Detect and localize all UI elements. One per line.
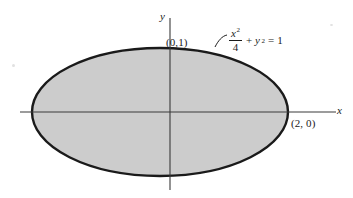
point-label-top: (0,1) bbox=[166, 37, 188, 48]
fraction-denominator: 4 bbox=[231, 41, 241, 53]
x-axis-label: x bbox=[337, 105, 342, 116]
y-axis-label: y bbox=[160, 11, 165, 22]
equals-operator: = bbox=[266, 35, 276, 46]
y-variable: y bbox=[255, 35, 260, 46]
scan-speck bbox=[12, 64, 15, 67]
ellipse-equation: x2 4 + y2 = 1 bbox=[229, 28, 283, 53]
figure-canvas: y x (0,1) (2, 0) x2 4 + y2 = 1 bbox=[0, 0, 353, 198]
scan-speck bbox=[330, 24, 333, 26]
numerator-exponent: 2 bbox=[236, 26, 240, 34]
point-label-right: (2, 0) bbox=[291, 118, 315, 129]
ellipse-diagram bbox=[0, 0, 353, 198]
equation-leader-line bbox=[215, 35, 227, 47]
equation-fraction: x2 4 bbox=[229, 28, 242, 53]
equation-rhs: 1 bbox=[277, 35, 283, 46]
plus-operator: + bbox=[244, 35, 254, 46]
fraction-numerator: x2 bbox=[229, 28, 242, 40]
